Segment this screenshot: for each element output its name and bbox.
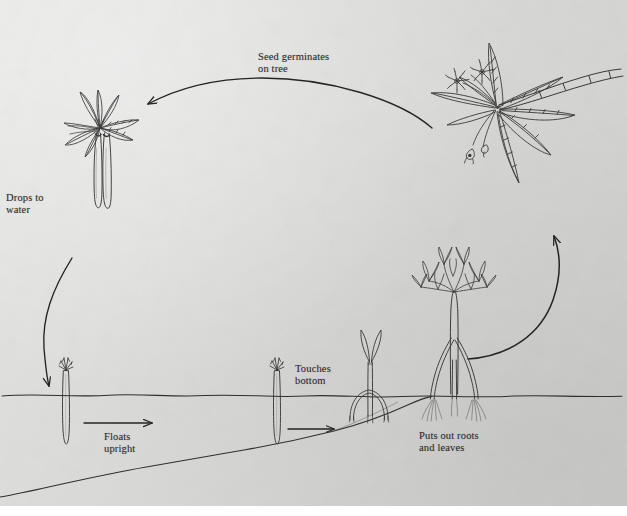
stage-young-tree [412,247,496,421]
label-touches-bottom: Touches bottom [295,363,331,388]
label-seed-germinates: Seed germinates on tree [258,51,329,76]
page-bottom-margin [0,506,627,516]
sea-floor [0,396,432,497]
arrow-seed-germinates-to-hanging [148,78,432,128]
stage-rooting-seedling [349,330,388,423]
water-surface [2,395,622,397]
label-floats-upright: Floats upright [104,431,135,456]
arrow-drops-to-water [44,258,72,386]
label-drops-to-water: Drops to water [6,192,44,217]
label-puts-out-roots: Puts out roots and leaves [419,430,479,455]
mangrove-life-cycle-drawing [0,0,627,516]
stage-germination-on-tree [64,90,139,208]
arrow-puts-out-roots-to-tree [468,236,559,359]
stage-touches-bottom [270,358,284,444]
illustration-page: Seed germinates on tree Drops to water F… [0,0,627,516]
stage-floats-upright [59,358,73,444]
stage-mature-tree [431,43,623,183]
